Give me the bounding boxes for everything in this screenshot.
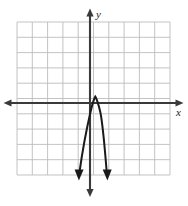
- x-axis-label: x: [175, 106, 181, 118]
- graph-figure: y x: [0, 0, 188, 206]
- y-axis-top-arrow-icon: [86, 9, 93, 17]
- y-axis-bottom-arrow-icon: [86, 189, 93, 197]
- y-axis-label: y: [95, 8, 101, 20]
- coordinate-plane-svg: y x: [0, 0, 188, 206]
- x-axis-left-arrow-icon: [4, 99, 12, 106]
